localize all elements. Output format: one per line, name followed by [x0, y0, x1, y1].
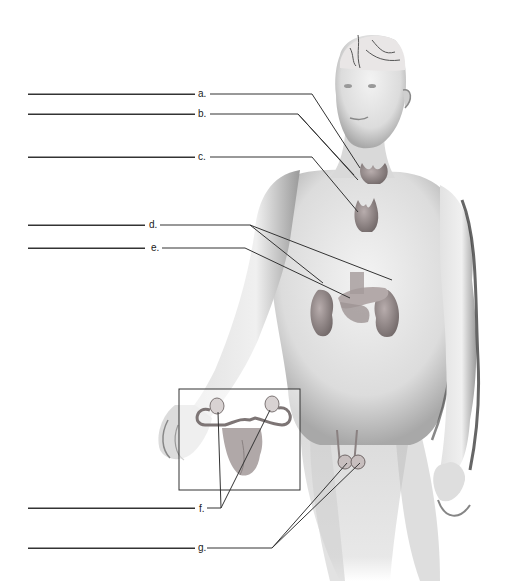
answer-blank-c[interactable] — [28, 157, 195, 158]
label-b: b. — [198, 109, 206, 119]
head — [335, 35, 410, 148]
answer-blank-e[interactable] — [28, 248, 145, 249]
answer-blank-f[interactable] — [28, 508, 195, 509]
body-illustration — [0, 0, 513, 581]
answer-blank-b[interactable] — [28, 114, 195, 115]
ovary-inset — [179, 389, 300, 490]
label-g: g. — [198, 543, 206, 553]
answer-blank-g[interactable] — [28, 548, 195, 549]
label-c: c. — [198, 152, 206, 162]
label-a: a. — [198, 89, 206, 99]
label-f: f. — [199, 504, 205, 514]
endocrine-diagram: a. b. c. d. e. f. g. — [0, 0, 513, 581]
label-d: d. — [149, 220, 157, 230]
answer-blank-d[interactable] — [28, 225, 145, 226]
answer-blank-a[interactable] — [28, 94, 195, 95]
label-e: e. — [151, 243, 159, 253]
